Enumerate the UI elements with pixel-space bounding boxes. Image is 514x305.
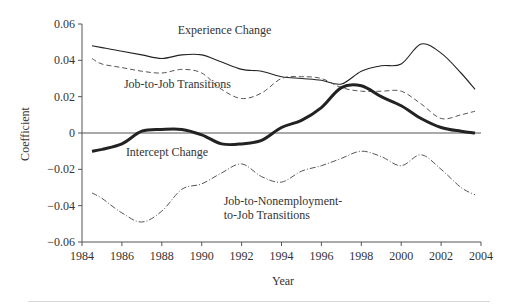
x-tick-label: 1992 bbox=[230, 249, 254, 263]
x-tick-label: 1996 bbox=[309, 249, 333, 263]
series-annotation: Job-to-Job Transitions bbox=[124, 77, 231, 91]
line-chart: 0.060.040.020−0.02−0.04−0.06 19841986198… bbox=[0, 0, 514, 305]
y-tick-label: −0.06 bbox=[47, 235, 75, 249]
y-tick-label: −0.04 bbox=[47, 199, 75, 213]
series-annotation: Experience Change bbox=[178, 23, 272, 37]
x-tick-label: 1988 bbox=[150, 249, 174, 263]
x-tick-label: 2004 bbox=[469, 249, 493, 263]
bottom-divider bbox=[28, 301, 490, 302]
y-axis-ticks: 0.060.040.020−0.02−0.04−0.06 bbox=[47, 17, 82, 249]
x-tick-label: 2000 bbox=[389, 249, 413, 263]
x-tick-label: 1998 bbox=[349, 249, 373, 263]
x-tick-label: 1986 bbox=[110, 249, 134, 263]
series-line-intercept-change bbox=[92, 85, 475, 151]
series-annotation: Job-to-Nonemployment- bbox=[224, 194, 343, 208]
x-axis-label: Year bbox=[272, 274, 294, 288]
y-tick-label: 0.02 bbox=[54, 90, 75, 104]
series-annotation: to-Job Transitions bbox=[224, 208, 311, 222]
y-tick-label: 0 bbox=[69, 126, 75, 140]
y-tick-label: 0.06 bbox=[54, 17, 75, 31]
y-tick-label: 0.04 bbox=[54, 53, 75, 67]
y-axis-label: Coefficient bbox=[18, 106, 32, 160]
series-annotations: Experience ChangeJob-to-Job TransitionsI… bbox=[124, 23, 342, 222]
x-tick-label: 1984 bbox=[70, 249, 94, 263]
x-tick-label: 2002 bbox=[429, 249, 453, 263]
x-tick-label: 1990 bbox=[190, 249, 214, 263]
x-tick-label: 1994 bbox=[270, 249, 294, 263]
y-tick-label: −0.02 bbox=[47, 162, 75, 176]
x-axis-ticks: 1984198619881990199219941996199820002002… bbox=[70, 242, 493, 263]
series-annotation: Intercept Change bbox=[126, 145, 208, 159]
